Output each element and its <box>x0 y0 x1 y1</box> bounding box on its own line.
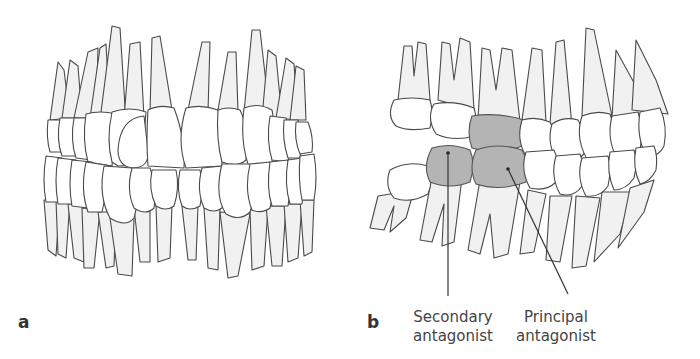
label-line: antagonist <box>509 327 603 346</box>
lower-teeth <box>370 145 657 268</box>
panel-label-b: b <box>367 312 379 332</box>
lateral-dentition-illustration <box>350 0 700 359</box>
panel-b-lateral-view: b Secondary antagonist Principal antagon… <box>350 0 700 359</box>
upper-teeth <box>47 26 312 168</box>
principal-antagonist-label: Principal antagonist <box>509 308 603 346</box>
lower-teeth <box>44 154 316 278</box>
frontal-dentition-illustration <box>0 0 350 359</box>
upper-teeth <box>390 28 668 165</box>
panel-label-a: a <box>18 312 29 332</box>
label-line: Principal <box>509 308 603 327</box>
panel-a-frontal-view: a <box>0 0 350 359</box>
label-line: antagonist <box>406 327 500 346</box>
secondary-antagonist-label: Secondary antagonist <box>406 308 500 346</box>
label-line: Secondary <box>406 308 500 327</box>
